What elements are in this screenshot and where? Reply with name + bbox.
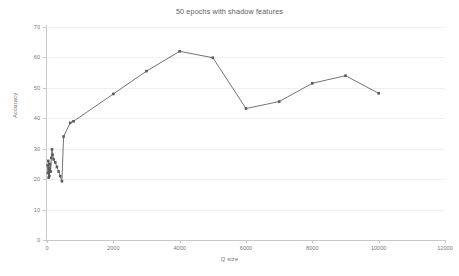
x-axis-tick-label: 6000 <box>226 245 266 251</box>
y-axis-tick-mark <box>43 149 46 150</box>
data-point-marker <box>245 107 248 110</box>
y-axis-title: Accuracy <box>12 93 18 118</box>
x-axis-title: Q size <box>0 256 459 262</box>
data-point-marker <box>344 74 347 77</box>
data-point-marker <box>61 180 64 183</box>
plot-area <box>47 27 445 240</box>
data-point-marker <box>72 120 75 123</box>
data-point-marker <box>49 163 52 166</box>
y-axis-tick-mark <box>43 240 46 241</box>
data-point-marker <box>56 166 59 169</box>
data-point-marker <box>212 56 215 59</box>
data-point-marker <box>47 172 50 175</box>
data-point-marker <box>62 135 65 138</box>
data-point-marker <box>51 154 54 157</box>
y-axis-tick-label: 50 <box>18 85 40 91</box>
y-axis-tick-label: 0 <box>18 237 40 243</box>
data-point-marker <box>145 70 148 73</box>
series-line <box>48 51 379 181</box>
y-axis-tick-mark <box>43 27 46 28</box>
data-point-marker <box>50 157 53 160</box>
x-axis-tick-label: 4000 <box>160 245 200 251</box>
x-axis-tick-mark <box>445 240 446 243</box>
data-point-marker <box>46 164 49 167</box>
x-axis-tick-label: 8000 <box>292 245 332 251</box>
data-point-marker <box>311 82 314 85</box>
chart-figure: 50 epochs with shadow features 010203040… <box>0 0 459 276</box>
y-axis-tick-label: 40 <box>18 115 40 121</box>
chart-title: 50 epochs with shadow features <box>0 7 459 16</box>
x-axis-tick-mark <box>113 240 114 243</box>
y-axis-tick-mark <box>43 179 46 180</box>
data-point-marker <box>57 170 60 173</box>
y-axis-tick-mark <box>43 118 46 119</box>
y-axis-tick-mark <box>43 88 46 89</box>
data-point-marker <box>278 100 281 103</box>
data-series-layer <box>47 27 445 240</box>
data-point-marker <box>51 148 54 151</box>
data-point-marker <box>49 170 52 173</box>
y-axis-tick-mark <box>43 57 46 58</box>
y-axis-tick-mark <box>43 210 46 211</box>
data-point-marker <box>377 92 380 95</box>
x-axis-tick-label: 2000 <box>93 245 133 251</box>
x-axis-tick-mark <box>47 240 48 243</box>
x-axis-tick-label: 10000 <box>359 245 399 251</box>
y-axis-tick-label: 20 <box>18 176 40 182</box>
y-axis-tick-label: 30 <box>18 146 40 152</box>
data-point-marker <box>48 175 51 178</box>
data-point-marker <box>69 122 72 125</box>
data-point-marker <box>54 161 57 164</box>
data-point-marker <box>59 175 62 178</box>
x-axis-tick-mark <box>246 240 247 243</box>
data-point-marker <box>112 93 115 96</box>
data-point-marker <box>48 167 51 170</box>
x-axis-tick-mark <box>180 240 181 243</box>
y-axis-tick-label: 10 <box>18 207 40 213</box>
y-axis-tick-label: 70 <box>18 24 40 30</box>
x-axis-tick-mark <box>379 240 380 243</box>
data-point-marker <box>178 50 181 53</box>
x-axis-tick-label: 0 <box>27 245 67 251</box>
x-axis-tick-label: 12000 <box>425 245 459 251</box>
data-point-marker <box>47 160 50 163</box>
data-point-marker <box>52 158 55 161</box>
y-axis-tick-label: 60 <box>18 54 40 60</box>
x-axis-tick-mark <box>312 240 313 243</box>
